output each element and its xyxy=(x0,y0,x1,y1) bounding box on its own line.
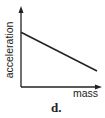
figure-caption: d. xyxy=(51,100,61,116)
x-axis-label: mass xyxy=(73,87,98,99)
y-axis-label: acceleration xyxy=(3,22,15,79)
y-axis-arrow-icon xyxy=(19,6,24,13)
data-line xyxy=(21,32,97,71)
chart-figure: acceleration mass d. xyxy=(0,0,105,118)
